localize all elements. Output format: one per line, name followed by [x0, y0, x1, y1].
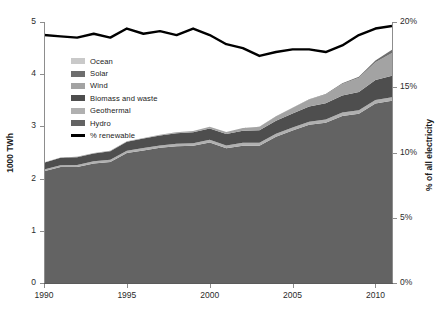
y-tick-label: 1 — [31, 225, 36, 235]
y-axis-right-title: % of all electricity — [424, 118, 434, 192]
legend-item[interactable]: Ocean — [71, 55, 158, 67]
legend-item-label: Biomass and waste — [90, 94, 158, 103]
legend-item-label: Geothermal — [90, 106, 131, 115]
y-axis-left-line — [44, 22, 45, 284]
y-tick-label: 2 — [31, 173, 36, 183]
x-tick-label: 1990 — [35, 290, 54, 300]
y-tick-label: 5 — [31, 16, 36, 26]
y-tick — [40, 74, 44, 75]
legend-item-label: Solar — [90, 69, 108, 78]
legend-swatch-icon — [71, 71, 85, 77]
legend-item[interactable]: Solar — [71, 67, 158, 79]
y2-tick-label: 15% — [400, 81, 417, 91]
legend-swatch-icon — [71, 108, 85, 114]
x-tick — [44, 284, 45, 288]
y2-tick — [393, 283, 397, 284]
y2-tick-label: 20% — [400, 16, 417, 26]
x-tick — [375, 284, 376, 288]
x-axis-line — [44, 283, 393, 284]
legend-swatch-icon — [71, 58, 85, 64]
legend-item[interactable]: Wind — [71, 80, 158, 92]
legend-item[interactable]: % renewable — [71, 129, 158, 141]
line-percent-renewable — [44, 26, 392, 56]
chart-legend: OceanSolarWindBiomass and wasteGeotherma… — [71, 55, 158, 142]
y2-tick — [393, 153, 397, 154]
legend-item-label: Ocean — [90, 57, 113, 66]
legend-item-label: % renewable — [90, 131, 135, 140]
y-tick — [40, 126, 44, 127]
x-tick-label: 2000 — [200, 290, 219, 300]
y-tick — [40, 231, 44, 232]
x-tick — [210, 284, 211, 288]
legend-item[interactable]: Hydro — [71, 117, 158, 129]
legend-swatch-icon — [71, 83, 85, 89]
y2-tick-label: 10% — [400, 147, 417, 157]
legend-item[interactable]: Biomass and waste — [71, 92, 158, 104]
y-tick-label: 3 — [31, 120, 36, 130]
y2-tick — [393, 218, 397, 219]
x-tick-label: 2010 — [366, 290, 385, 300]
x-tick — [127, 284, 128, 288]
y-tick-label: 0 — [31, 277, 36, 287]
y2-tick — [393, 87, 397, 88]
y2-tick-label: 0% — [400, 277, 412, 287]
legend-swatch-icon — [71, 120, 85, 126]
y-axis-left-title: 1000 TWh — [5, 122, 15, 184]
legend-item-label: Hydro — [90, 119, 111, 128]
renewable-electricity-area-chart: 012345 0%5%10%15%20% 1990199520002005201… — [0, 0, 442, 319]
x-tick-label: 2005 — [283, 290, 302, 300]
y2-tick — [393, 22, 397, 23]
y-tick — [40, 22, 44, 23]
x-tick-label: 1995 — [117, 290, 136, 300]
legend-item[interactable]: Geothermal — [71, 105, 158, 117]
legend-swatch-icon — [71, 95, 85, 101]
y2-tick-label: 5% — [400, 212, 412, 222]
x-tick — [293, 284, 294, 288]
y-tick-label: 4 — [31, 68, 36, 78]
legend-swatch-icon — [71, 134, 85, 136]
y-tick — [40, 179, 44, 180]
legend-item-label: Wind — [90, 81, 108, 90]
